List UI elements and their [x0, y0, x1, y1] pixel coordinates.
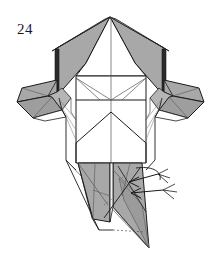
origami-diagram: 24	[0, 0, 222, 273]
step-number-label: 24	[17, 21, 33, 37]
origami-figure-container: 24	[0, 0, 222, 273]
